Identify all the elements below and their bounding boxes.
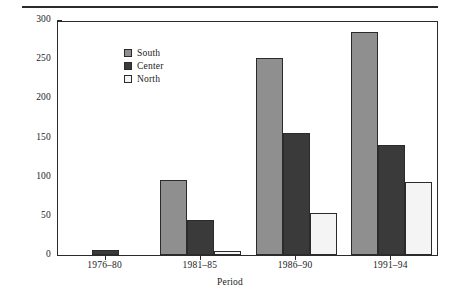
y-tick-label: 250 xyxy=(0,53,51,63)
plot-area: South Center North xyxy=(57,21,438,256)
bar-north-3 xyxy=(405,182,432,255)
y-tick-label: 100 xyxy=(0,171,51,181)
y-tick-label: 300 xyxy=(0,14,51,24)
y-tick-label: 200 xyxy=(0,92,51,102)
bar-south-1 xyxy=(160,180,187,255)
legend-swatch-north-icon xyxy=(124,75,132,83)
legend-item-center: Center xyxy=(124,60,164,72)
x-tick-label: 1991–94 xyxy=(350,260,430,270)
bar-south-2 xyxy=(256,58,283,255)
bar-north-2 xyxy=(310,213,337,255)
legend-label-south: South xyxy=(137,48,160,58)
y-tick-label: 0 xyxy=(0,249,51,259)
x-tick-label: 1986–90 xyxy=(255,260,335,270)
bar-center-0 xyxy=(92,250,119,255)
bar-center-3 xyxy=(378,145,405,255)
bar-south-3 xyxy=(351,32,378,255)
bar-north-1 xyxy=(214,251,241,255)
bar-center-2 xyxy=(283,133,310,255)
legend-label-north: North xyxy=(137,74,160,84)
legend-swatch-south-icon xyxy=(124,49,132,57)
x-axis-label: Period xyxy=(0,277,460,287)
legend-item-north: North xyxy=(124,73,164,85)
legend-item-south: South xyxy=(124,47,164,59)
x-tick-label: 1981–85 xyxy=(160,260,240,270)
legend-swatch-center-icon xyxy=(124,62,132,70)
legend-label-center: Center xyxy=(137,61,164,71)
x-tick-label: 1976–80 xyxy=(65,260,145,270)
chart-figure: Number of incidents 050100150200250300 S… xyxy=(0,0,460,297)
y-tick-label: 50 xyxy=(0,210,51,220)
legend: South Center North xyxy=(124,47,164,86)
top-rule xyxy=(22,6,438,8)
y-tick-label: 150 xyxy=(0,132,51,142)
bar-center-1 xyxy=(187,220,214,255)
